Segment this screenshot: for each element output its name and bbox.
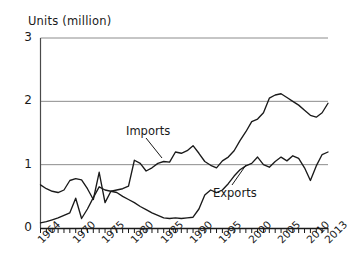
y-axis-tick-label: 3 — [18, 30, 32, 44]
y-axis-tick-label: 1 — [18, 157, 32, 171]
series-label-imports: Imports — [126, 124, 170, 138]
y-axis-tick-label: 2 — [18, 93, 32, 107]
series-label-exports: Exports — [213, 186, 257, 200]
exports-leader-line — [232, 165, 246, 185]
series-line-imports — [41, 94, 329, 203]
series-line-exports — [41, 152, 329, 223]
y-axis-tick-label: 0 — [18, 220, 32, 234]
imports-leader-line — [146, 138, 162, 158]
gridlines — [41, 38, 329, 165]
